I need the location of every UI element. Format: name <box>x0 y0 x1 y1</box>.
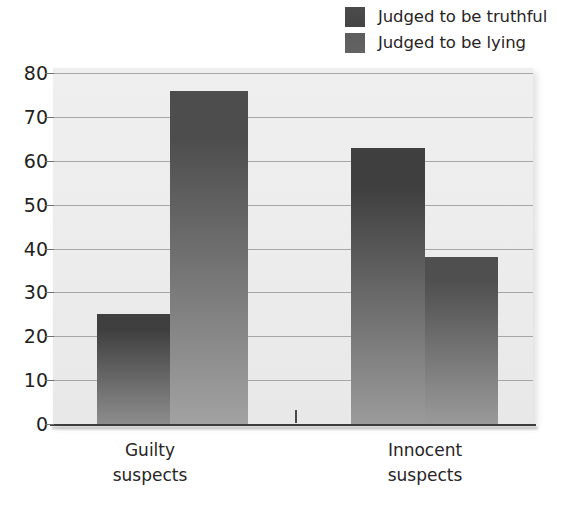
bar-innocent-truthful <box>351 148 425 424</box>
x-axis-line <box>50 424 536 426</box>
bar-guilty-lying <box>170 91 248 424</box>
y-tick-label-50: 50 <box>6 196 48 215</box>
x-category-innocent-line1: Innocent <box>335 438 515 463</box>
y-tick-mark-70 <box>45 117 54 118</box>
y-tick-mark-40 <box>45 249 54 250</box>
legend-item-lying: Judged to be lying <box>345 30 575 56</box>
y-tick-mark-60 <box>45 161 54 162</box>
legend-swatch-lying <box>345 33 365 53</box>
gridline-40 <box>53 249 533 250</box>
y-tick-mark-10 <box>45 380 54 381</box>
x-axis: Guilty suspects Innocent suspects <box>0 430 576 502</box>
gridline-50 <box>53 205 533 206</box>
y-tick-mark-50 <box>45 205 54 206</box>
x-category-guilty-line2: suspects <box>60 463 240 488</box>
x-axis-center-tick <box>295 410 297 423</box>
gridline-60 <box>53 161 533 162</box>
y-tick-label-70: 70 <box>6 108 48 127</box>
y-tick-mark-0 <box>45 424 54 425</box>
legend-item-truthful: Judged to be truthful <box>345 4 575 30</box>
x-category-innocent: Innocent suspects <box>335 438 515 488</box>
y-tick-mark-30 <box>45 292 54 293</box>
legend-swatch-truthful <box>345 7 365 27</box>
bar-innocent-lying <box>425 257 498 424</box>
plot-area <box>53 68 533 424</box>
bar-guilty-truthful <box>97 314 170 424</box>
x-category-innocent-line2: suspects <box>335 463 515 488</box>
y-tick-label-30: 30 <box>6 283 48 302</box>
gridline-70 <box>53 117 533 118</box>
y-tick-label-20: 20 <box>6 327 48 346</box>
baseline-shadow <box>52 427 538 429</box>
x-category-guilty: Guilty suspects <box>60 438 240 488</box>
y-tick-label-40: 40 <box>6 240 48 259</box>
legend-label-lying: Judged to be lying <box>378 33 526 53</box>
y-tick-mark-80 <box>45 73 54 74</box>
y-tick-mark-20 <box>45 336 54 337</box>
y-tick-label-60: 60 <box>6 152 48 171</box>
legend-label-truthful: Judged to be truthful <box>378 7 547 27</box>
x-category-guilty-line1: Guilty <box>60 438 240 463</box>
chart-legend: Judged to be truthful Judged to be lying <box>345 4 575 56</box>
y-tick-label-80: 80 <box>6 64 48 83</box>
y-tick-label-10: 10 <box>6 371 48 390</box>
gridline-80 <box>53 73 533 74</box>
